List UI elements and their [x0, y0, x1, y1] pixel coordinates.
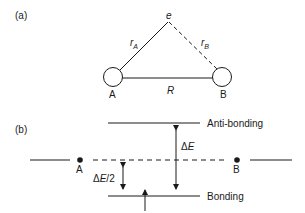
- atom-b-dot: [234, 157, 240, 163]
- antibonding-label: Anti-bonding: [207, 118, 263, 129]
- panel-a: (a) e rA rB R A B: [15, 10, 232, 100]
- r-a-line: [119, 22, 168, 71]
- panel-b-label: (b): [15, 124, 27, 135]
- diagram-canvas: (a) e rA rB R A B (b) Anti-bonding A B B…: [0, 0, 305, 213]
- r-b-label: rB: [201, 37, 209, 50]
- nucleus-a-circle: [104, 68, 123, 87]
- nucleus-b-label: B: [220, 89, 227, 100]
- nucleus-a-label: A: [109, 89, 116, 100]
- panel-a-label: (a): [15, 10, 27, 21]
- atom-a-dot: [77, 157, 83, 163]
- panel-b: (b) Anti-bonding A B Bonding ΔE ΔE/2: [15, 118, 292, 211]
- atom-b-label: B: [233, 164, 240, 175]
- r-b-dashed-line: [169, 22, 218, 70]
- r-a-label: rA: [130, 37, 138, 50]
- delta-e-label: ΔE: [181, 141, 195, 152]
- nucleus-b-circle: [213, 68, 232, 87]
- distance-label: R: [167, 85, 174, 96]
- atom-a-label: A: [76, 164, 83, 175]
- electron-label: e: [166, 10, 172, 21]
- bonding-label: Bonding: [207, 191, 244, 202]
- delta-e-half-label: ΔE/2: [93, 173, 115, 184]
